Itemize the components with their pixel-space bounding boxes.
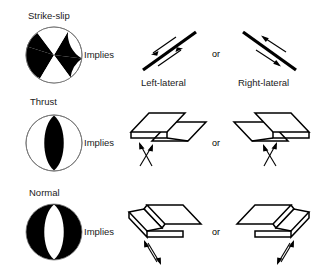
- slip-arrow-head-d: [273, 60, 281, 67]
- sketch-left-lateral: Left-lateral: [141, 32, 196, 88]
- fault-trace-right-lateral: [243, 32, 296, 70]
- row-strike-slip: Strike-slip Implies Left-lateral or: [26, 10, 296, 88]
- sketch-right-lateral: Right-lateral: [238, 32, 296, 88]
- mechanism-label-thrust: Thrust: [30, 96, 57, 107]
- thrust-arrow-head-a: [139, 142, 145, 150]
- fault-mechanism-figure: Strike-slip Implies Left-lateral or: [0, 0, 319, 271]
- beachball-normal: [26, 204, 82, 260]
- mechanism-label-strike-slip: Strike-slip: [28, 10, 70, 21]
- connector-label-thrust: or: [212, 138, 220, 148]
- implies-label-strike-slip: Implies: [84, 49, 114, 60]
- beachball-thrust: [26, 115, 82, 171]
- row-normal: Normal Implies or: [26, 187, 309, 265]
- sketch-thrust-left: [131, 113, 206, 166]
- hangingwall-top-face: [147, 231, 183, 237]
- caption-left-lateral: Left-lateral: [141, 77, 186, 88]
- implies-label-thrust: Implies: [84, 137, 114, 148]
- thrust-arrow-head-c: [272, 142, 278, 150]
- caption-right-lateral: Right-lateral: [238, 77, 289, 88]
- connector-label-normal: or: [212, 227, 220, 237]
- sketch-thrust-right: [234, 113, 309, 166]
- hangingwall-top-face: [255, 231, 291, 237]
- mechanism-label-normal: Normal: [29, 187, 60, 198]
- connector-label-strike-slip: or: [212, 49, 220, 59]
- slip-arrow-head-c: [261, 36, 269, 43]
- beachball-strike-slip: [26, 27, 82, 83]
- sketch-normal-right: [237, 205, 309, 265]
- fault-trace-left-lateral: [143, 32, 196, 70]
- thrust-arrow-head-b: [148, 144, 153, 152]
- row-thrust: Thrust Implies or: [26, 96, 309, 171]
- thrust-arrow-head-d: [263, 144, 268, 152]
- implies-label-normal: Implies: [84, 226, 114, 237]
- sketch-normal-left: [129, 205, 201, 265]
